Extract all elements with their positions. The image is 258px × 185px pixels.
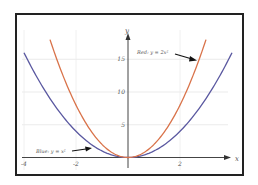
y-tick-label: 5 (121, 121, 125, 128)
x-axis-label: x (235, 155, 239, 163)
x-tick-label: -4 (21, 160, 27, 167)
blue-annotation: Blue: y = x² (35, 148, 66, 155)
chart: x y -4-2251015 Red: y = 2x² Blue: y = x² (0, 0, 258, 185)
y-tick-label: 15 (117, 55, 125, 62)
x-tick-label: 2 (177, 160, 182, 167)
y-tick-label: 10 (117, 88, 125, 95)
x-tick-label: -2 (73, 160, 79, 167)
red-annotation: Red: y = 2x² (136, 49, 168, 56)
